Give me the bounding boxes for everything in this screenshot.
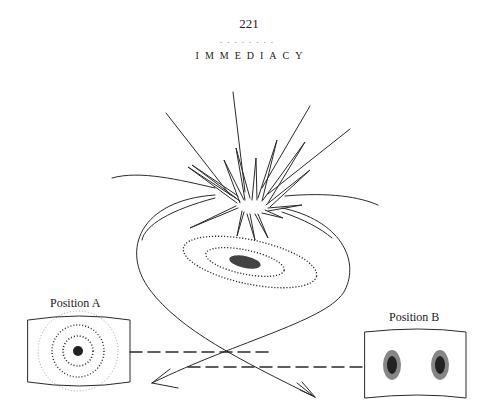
figure-illustration <box>0 0 498 415</box>
two-clusters-icon <box>383 350 449 380</box>
position-b-label: Position B <box>389 310 439 325</box>
screen-position-b <box>365 329 466 398</box>
position-a-label: Position A <box>50 296 100 311</box>
